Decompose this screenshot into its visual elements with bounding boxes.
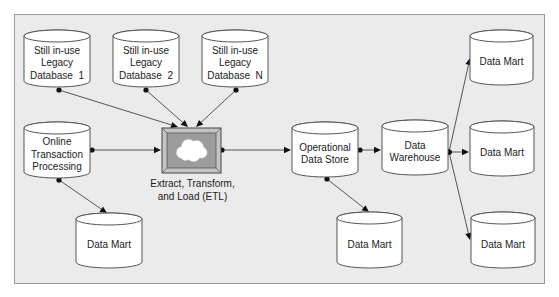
node-label-line: Data Mart <box>480 147 524 158</box>
node-label-line: Processing <box>32 161 81 172</box>
node-label-line: Still in-use <box>212 45 259 56</box>
node-label-line: Data Mart <box>348 239 392 250</box>
node-label-line: Database 2 <box>119 70 173 81</box>
node-label-line: Transaction <box>31 149 83 160</box>
database-cylinder-top <box>113 30 179 42</box>
node-label-line: Data Store <box>301 154 349 165</box>
etl-caption-line: Extract, Transform, <box>150 178 234 189</box>
connector-origin-dot <box>56 87 61 92</box>
database-cylinder-top <box>337 212 402 224</box>
node-label-line: Legacy <box>41 57 73 68</box>
database-legacyN: Still in-useLegacyDatabase N <box>202 30 268 87</box>
database-cylinder-top <box>470 30 533 42</box>
node-label-line: Database 1 <box>30 70 84 81</box>
database-mart-dw1: Data Mart <box>470 30 533 85</box>
database-cylinder-top <box>471 212 535 224</box>
node-label-line: Legacy <box>219 57 251 68</box>
database-cylinder-top <box>24 30 90 42</box>
database-mart-oltp: Data Mart <box>76 213 142 268</box>
node-label-line: Legacy <box>130 57 162 68</box>
database-cylinder-top <box>292 122 358 134</box>
database-mart-dw3: Data Mart <box>471 212 535 268</box>
node-label-line: Data Mart <box>481 239 525 250</box>
node-label-line: Online <box>43 136 72 147</box>
node-label-line: Still in-use <box>123 45 170 56</box>
diagram-canvas: Still in-useLegacyDatabase 1Still in-use… <box>0 0 559 297</box>
database-oltp: OnlineTransactionProcessing <box>24 122 90 178</box>
node-label-line: Database N <box>207 70 263 81</box>
etl-caption-line: and Load (ETL) <box>158 191 228 202</box>
database-ods: OperationalData Store <box>292 122 358 177</box>
node-label-line: Operational <box>299 142 351 153</box>
node-label-line: Data Mart <box>480 56 524 67</box>
database-cylinder-top <box>24 122 90 134</box>
database-cylinder-top <box>202 30 268 42</box>
database-cylinder-top <box>76 213 142 225</box>
node-label-line: Warehouse <box>390 152 441 163</box>
node-label-line: Data <box>404 140 426 151</box>
connector-origin-dot <box>143 87 148 92</box>
database-mart-ods: Data Mart <box>337 212 402 268</box>
database-legacy2: Still in-useLegacyDatabase 2 <box>113 30 179 87</box>
node-label-line: Data Mart <box>87 239 131 250</box>
database-cylinder-top <box>470 121 534 133</box>
database-cylinder-top <box>382 120 448 132</box>
node-label-line: Still in-use <box>34 45 81 56</box>
database-mart-dw2: Data Mart <box>470 121 534 176</box>
connector-origin-dot <box>233 87 238 92</box>
database-dw: DataWarehouse <box>382 120 448 175</box>
database-legacy1: Still in-useLegacyDatabase 1 <box>24 30 90 87</box>
